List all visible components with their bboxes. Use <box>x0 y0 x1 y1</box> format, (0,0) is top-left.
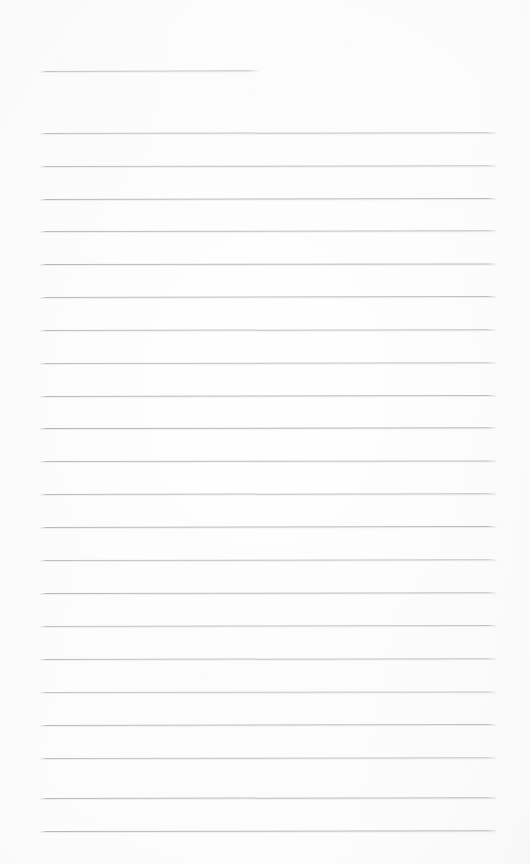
rule-line-2 <box>40 165 497 167</box>
rule-ink <box>40 132 497 134</box>
rule-ink <box>40 691 497 693</box>
scanned-page <box>0 0 530 864</box>
rule-line-11 <box>40 460 497 462</box>
rule-ink <box>40 526 497 528</box>
rule-ink <box>40 592 497 594</box>
rule-line-14 <box>40 559 497 561</box>
rule-line-5 <box>40 263 497 265</box>
rule-ink <box>40 329 497 331</box>
rule-ink <box>40 757 497 759</box>
rule-ink <box>40 70 258 72</box>
rule-line-8 <box>40 362 497 364</box>
rule-ink <box>40 198 497 200</box>
rule-ink <box>40 493 497 495</box>
rule-line-6 <box>40 296 497 298</box>
rule-line-16 <box>40 625 497 627</box>
rule-line-20 <box>40 757 497 759</box>
rule-line-21 <box>40 797 497 799</box>
rule-ink <box>40 263 497 265</box>
rule-ink <box>40 165 497 167</box>
rule-ink <box>40 460 497 462</box>
rule-line-9 <box>40 395 497 397</box>
rule-ink <box>40 625 497 627</box>
rule-ink <box>40 362 497 364</box>
rule-ink <box>40 830 497 832</box>
rule-line-header <box>40 70 258 72</box>
rule-line-17 <box>40 658 497 660</box>
rule-ink <box>40 658 497 660</box>
rule-line-3 <box>40 198 497 200</box>
rule-ink <box>40 230 497 232</box>
rule-ink <box>40 724 497 726</box>
rule-line-7 <box>40 329 497 331</box>
rule-ink <box>40 296 497 298</box>
rule-line-1 <box>40 132 497 134</box>
rule-line-4 <box>40 230 497 232</box>
writing-area[interactable] <box>0 0 530 864</box>
rule-line-22 <box>40 830 497 832</box>
rule-ink <box>40 427 497 429</box>
rule-line-19 <box>40 724 497 726</box>
rule-line-13 <box>40 526 497 528</box>
rule-line-18 <box>40 691 497 693</box>
rule-ink <box>40 797 497 799</box>
rule-ink <box>40 395 497 397</box>
rule-ink <box>40 559 497 561</box>
rule-line-12 <box>40 493 497 495</box>
rule-line-15 <box>40 592 497 594</box>
rule-line-10 <box>40 427 497 429</box>
